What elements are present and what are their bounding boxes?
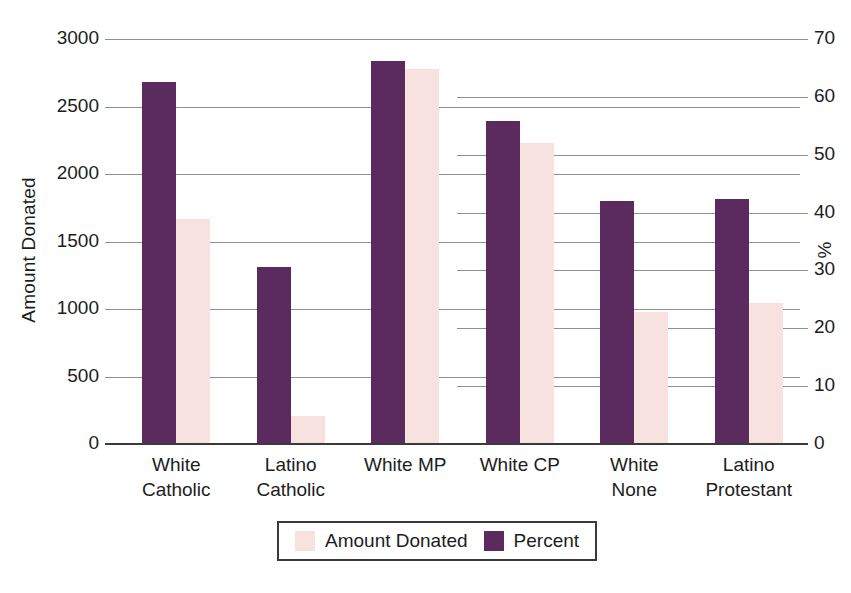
- x-axis-label-line2: Protestant: [674, 477, 824, 502]
- legend-label-amount-donated: Amount Donated: [325, 530, 468, 552]
- legend-swatch-amount-donated: [295, 531, 315, 551]
- gridline: [113, 309, 800, 310]
- y-tick-label-left: 2000: [4, 162, 99, 184]
- bar-group: [371, 39, 439, 444]
- plot-area: [113, 39, 800, 444]
- bar-amount-donated[interactable]: [291, 416, 325, 444]
- gridline: [113, 377, 800, 378]
- x-axis-baseline: [105, 443, 808, 445]
- gridline: [113, 174, 800, 175]
- y-axis-title-left: Amount Donated: [18, 0, 40, 150]
- bar-percent[interactable]: [142, 82, 176, 444]
- y-tick-label-left: 1500: [4, 230, 99, 252]
- legend-item-amount-donated[interactable]: Amount Donated: [295, 530, 468, 552]
- page-caption-strip: [0, 583, 851, 593]
- x-axis-label: LatinoProtestant: [674, 452, 824, 502]
- bar-amount-donated[interactable]: [520, 143, 554, 444]
- bar-group: [600, 39, 668, 444]
- y-tick-label-right: 50: [814, 143, 851, 165]
- legend-item-percent[interactable]: Percent: [484, 530, 579, 552]
- legend-label-percent: Percent: [514, 530, 579, 552]
- bar-amount-donated[interactable]: [176, 219, 210, 444]
- bar-percent[interactable]: [371, 61, 405, 444]
- bar-amount-donated[interactable]: [405, 69, 439, 444]
- y-tick-label-left: 2500: [4, 95, 99, 117]
- bar-chart: Amount Donated % 05001000150020002500300…: [0, 0, 851, 593]
- y-tick-label-right: 0: [814, 432, 851, 454]
- chart-legend: Amount Donated Percent: [277, 521, 597, 561]
- bar-amount-donated[interactable]: [749, 303, 783, 444]
- y-tick-label-right: 20: [814, 316, 851, 338]
- y-tick-label-left: 500: [4, 365, 99, 387]
- y-tick-label-right: 70: [814, 27, 851, 49]
- gridline: [113, 107, 800, 108]
- x-axis-label-line1: Latino: [265, 454, 317, 475]
- y-tick-label-left: 3000: [4, 27, 99, 49]
- y-tick-label-right: 30: [814, 258, 851, 280]
- bar-group: [486, 39, 554, 444]
- x-axis-label-line1: White: [610, 454, 659, 475]
- bar-group: [142, 39, 210, 444]
- x-axis-label-line1: White MP: [364, 454, 446, 475]
- x-axis-label-line1: White CP: [480, 454, 560, 475]
- bar-percent[interactable]: [486, 121, 520, 444]
- bar-group: [715, 39, 783, 444]
- y-tick-label-left: 0: [4, 432, 99, 454]
- x-axis-label-line2: Catholic: [216, 477, 366, 502]
- bar-group: [257, 39, 325, 444]
- gridline: [113, 242, 800, 243]
- y-tick-label-right: 10: [814, 374, 851, 396]
- y-tick-label-right: 40: [814, 201, 851, 223]
- legend-swatch-percent: [484, 531, 504, 551]
- bar-percent[interactable]: [257, 267, 291, 444]
- gridline: [113, 39, 800, 40]
- x-axis-label-line1: Latino: [723, 454, 775, 475]
- y-tick-label-right: 60: [814, 85, 851, 107]
- bar-percent[interactable]: [600, 201, 634, 444]
- y-tick-label-left: 1000: [4, 297, 99, 319]
- bar-percent[interactable]: [715, 199, 749, 444]
- bar-amount-donated[interactable]: [634, 312, 668, 444]
- x-axis-label-line1: White: [152, 454, 201, 475]
